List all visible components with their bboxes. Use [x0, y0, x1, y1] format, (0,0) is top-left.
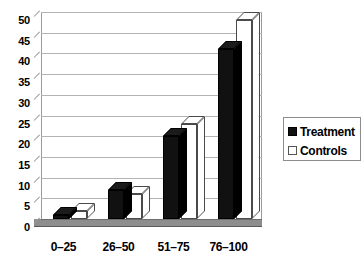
bar-front-face	[218, 49, 234, 219]
bar-side-face	[197, 116, 205, 219]
bar-front-face	[108, 190, 124, 219]
bar-side-face	[234, 41, 242, 219]
y-axis-tick-label: 5	[4, 201, 30, 211]
legend: TreatmentControls	[283, 117, 361, 161]
bar-front-face	[53, 215, 69, 219]
legend-item-label: Treatment	[300, 126, 355, 138]
legend-item-label: Controls	[300, 145, 347, 157]
bar-chart: 50454035302520151050 0–2526–5051–7576–10…	[0, 0, 362, 273]
legend-swatch-icon	[288, 127, 297, 136]
y-axis-tick-label: 15	[4, 160, 30, 170]
legend-item[interactable]: Treatment	[288, 122, 360, 141]
gridline	[41, 33, 262, 34]
y-axis-tick-label: 35	[4, 77, 30, 87]
y-axis: 50454035302520151050	[0, 0, 30, 273]
x-axis-tick-label: 51–75	[146, 241, 201, 253]
x-axis-tick-label: 26–50	[91, 241, 146, 253]
bar-treatment-2	[163, 136, 179, 219]
y-axis-tick-label: 25	[4, 119, 30, 129]
gridline	[41, 12, 262, 13]
y-axis-tick-label: 20	[4, 139, 30, 149]
bar-side-face	[179, 128, 187, 219]
x-axis-tick-label: 76–100	[201, 241, 256, 253]
bars-layer	[34, 12, 262, 227]
y-axis-tick-label: 40	[4, 56, 30, 66]
bar-treatment-1	[108, 190, 124, 219]
legend-item[interactable]: Controls	[288, 141, 360, 160]
gridline	[41, 219, 262, 220]
y-axis-tick-label: 0	[4, 222, 30, 232]
bar-side-face	[252, 12, 260, 219]
bar-treatment-3	[218, 49, 234, 219]
bar-front-face	[163, 136, 179, 219]
y-axis-tick-label: 30	[4, 98, 30, 108]
bar-treatment-0	[53, 215, 69, 219]
y-axis-tick-label: 10	[4, 181, 30, 191]
legend-swatch-icon	[288, 146, 297, 155]
plot-area	[34, 12, 262, 227]
x-axis-tick-label: 0–25	[36, 241, 91, 253]
y-axis-tick-label: 45	[4, 36, 30, 46]
y-axis-tick-label: 50	[4, 15, 30, 25]
